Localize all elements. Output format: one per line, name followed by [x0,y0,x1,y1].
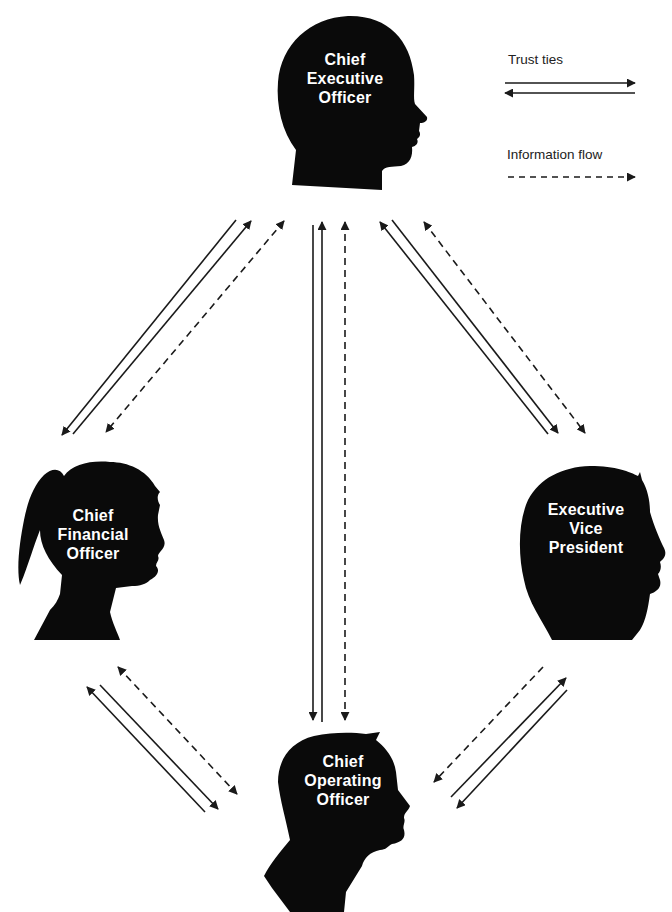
evp-label: Executive Vice President [536,500,636,557]
legend-trust-label: Trust ties [508,52,563,67]
cfo-coo-trust-up [87,687,205,812]
cfo-label: Chief Financial Officer [48,506,138,563]
cfo-coo-trust-down [100,685,218,809]
cfo-coo-info [118,667,237,794]
evp-coo-trust-up [451,678,566,797]
ceo-cfo-trust-down [62,220,236,435]
evp-coo-trust-down [457,690,567,808]
ceo-label: Chief Executive Officer [290,50,400,107]
ceo-evp-trust-up [380,222,548,434]
ceo-evp-trust-down [392,220,558,433]
ceo-cfo-info [106,221,284,432]
legend-info-label: Information flow [507,147,602,162]
ceo-evp-info [424,222,585,433]
ceo-cfo-trust-up [73,221,251,434]
evp-coo-info [434,667,543,782]
coo-label: Chief Operating Officer [288,752,398,809]
